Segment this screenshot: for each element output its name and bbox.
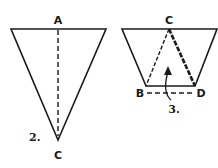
edge-c-b bbox=[146, 29, 169, 86]
step-label-3: 3. bbox=[168, 103, 179, 116]
point-label-b: B bbox=[136, 87, 144, 100]
trapezoid bbox=[122, 29, 217, 86]
step-label-2: 2. bbox=[29, 131, 40, 144]
origami-diagram: A C 2. C B D 3. bbox=[0, 0, 218, 168]
figure-step-2: A C 2. bbox=[11, 14, 106, 162]
diagram-canvas: A C 2. C B D 3. bbox=[0, 0, 218, 168]
point-label-c: C bbox=[54, 149, 62, 162]
point-label-c: C bbox=[165, 14, 173, 27]
arrow-head-icon bbox=[164, 66, 172, 75]
point-label-d: D bbox=[196, 87, 205, 100]
edge-c-d-thick bbox=[169, 29, 195, 86]
inverted-triangle bbox=[11, 29, 106, 140]
figure-step-3: C B D 3. bbox=[122, 14, 217, 116]
point-label-a: A bbox=[54, 14, 63, 27]
